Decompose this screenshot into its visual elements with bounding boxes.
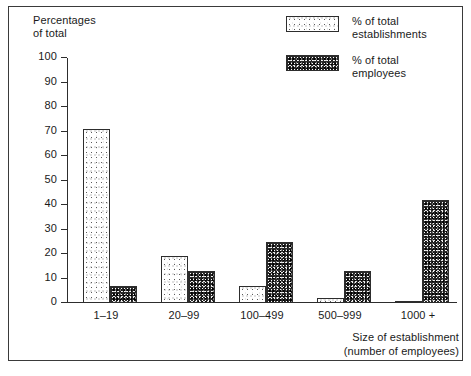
y-axis-title: Percentages of total — [33, 14, 96, 40]
y-axis-tick-label: 20 — [45, 245, 57, 259]
legend-swatch-light-stipple-icon — [286, 16, 339, 32]
y-axis-tick: 40 — [61, 204, 67, 205]
y-axis-tick-label: 60 — [45, 147, 57, 161]
legend-label-establishments: % of total establishments — [352, 15, 427, 41]
bar-employees — [344, 271, 371, 303]
y-axis-tick: 60 — [61, 155, 67, 156]
bar-employees — [110, 286, 137, 303]
y-axis-tick-label: 40 — [45, 196, 57, 210]
y-axis-tick: 50 — [61, 180, 67, 181]
y-axis-tick: 30 — [61, 229, 67, 230]
x-axis-category-label: 500–999 — [301, 309, 379, 322]
y-axis-tick-label: 80 — [45, 98, 57, 112]
plot-area: 1009080706050403020100 1–1920–99100–4995… — [67, 58, 457, 303]
x-axis-title: Size of establishment (number of employe… — [344, 330, 459, 358]
y-axis-line — [67, 58, 68, 303]
y-axis-tick-label: 50 — [45, 172, 57, 186]
x-axis-category-label: 1–19 — [67, 309, 145, 322]
bar-employees — [266, 242, 293, 303]
y-axis-tick-label: 30 — [45, 221, 57, 235]
bar-establishments — [395, 301, 422, 303]
bar-employees — [188, 271, 215, 303]
bar-establishments — [317, 298, 344, 303]
y-axis-tick: 100 — [61, 57, 67, 58]
y-axis-tick: 10 — [61, 278, 67, 279]
y-axis-tick-label: 90 — [45, 74, 57, 88]
y-axis-tick: 20 — [61, 253, 67, 254]
x-axis-category-label: 100–499 — [223, 309, 301, 322]
y-axis-tick: 70 — [61, 131, 67, 132]
x-axis-category-label: 1000 + — [379, 309, 457, 322]
y-axis-tick: 0 — [61, 302, 67, 303]
x-axis-category-label: 20–99 — [145, 309, 223, 322]
bar-chart-figure: Percentages of total % of total establis… — [0, 0, 471, 376]
y-axis-tick: 80 — [61, 106, 67, 107]
bar-establishments — [83, 129, 110, 303]
legend-item-establishments: % of total establishments — [286, 15, 427, 41]
y-axis-tick: 90 — [61, 82, 67, 83]
bar-establishments — [239, 286, 266, 303]
bar-employees — [422, 200, 449, 303]
y-axis-tick-label: 0 — [51, 294, 57, 308]
y-axis-tick-label: 10 — [45, 270, 57, 284]
bar-establishments — [161, 256, 188, 303]
y-axis-tick-label: 100 — [38, 49, 57, 63]
y-axis-tick-label: 70 — [45, 123, 57, 137]
